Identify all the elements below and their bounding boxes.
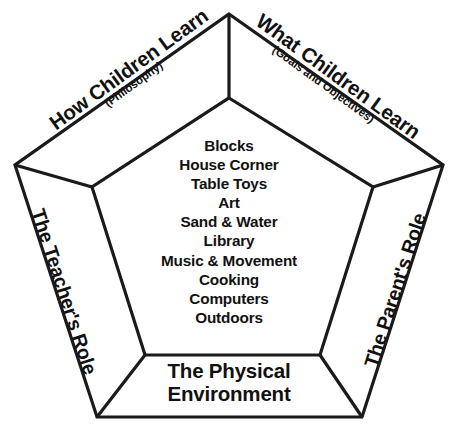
- center-list-item: Art: [79, 193, 379, 212]
- pentagon-diagram: How Children Learn (Philosophy) What Chi…: [0, 0, 458, 428]
- band-title-physical-environment-line1: The Physical: [168, 359, 291, 382]
- center-list-item: Table Toys: [79, 174, 379, 193]
- center-list-item: Library: [79, 231, 379, 250]
- center-learning-centers-list: BlocksHouse CornerTable ToysArtSand & Wa…: [79, 136, 379, 327]
- band-title-physical-environment-line2: Environment: [167, 382, 290, 405]
- center-list-item: Blocks: [79, 136, 379, 155]
- center-list-item: Sand & Water: [79, 212, 379, 231]
- band-label-physical-environment: The Physical Environment: [129, 360, 329, 406]
- center-list-item: Cooking: [79, 270, 379, 289]
- center-list-item: Outdoors: [79, 308, 379, 327]
- center-list-item: House Corner: [79, 155, 379, 174]
- center-list-item: Computers: [79, 289, 379, 308]
- center-list-item: Music & Movement: [79, 251, 379, 270]
